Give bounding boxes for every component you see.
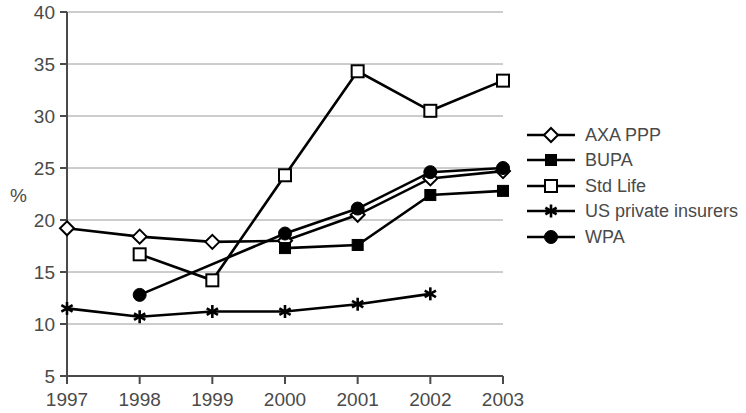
legend-marker-filled-square-icon xyxy=(525,149,577,171)
legend-item[interactable]: WPA xyxy=(525,224,740,250)
x-tick-label: 2000 xyxy=(264,389,306,410)
y-tick-label: 5 xyxy=(44,366,55,387)
data-point-filled-circle xyxy=(351,202,364,215)
data-point-open-square xyxy=(545,180,557,192)
data-point-open-square xyxy=(352,65,364,77)
data-point-filled-square xyxy=(352,239,363,250)
series-wpa xyxy=(140,168,503,295)
x-tick-label: 2001 xyxy=(337,389,379,410)
data-point-filled-square xyxy=(546,155,557,166)
data-point-open-diamond xyxy=(60,221,74,235)
data-point-open-square xyxy=(279,169,291,181)
data-point-filled-square xyxy=(280,243,291,254)
legend-marker-open-square-icon xyxy=(525,175,577,197)
y-tick-labels: 510152025303540 xyxy=(34,2,55,387)
data-point-filled-circle xyxy=(279,227,292,240)
x-tick-labels: 1997199819992000200120022003 xyxy=(46,389,524,410)
legend-item[interactable]: BUPA xyxy=(525,148,740,174)
x-tick-label: 1998 xyxy=(119,389,161,410)
legend-marker-filled-circle-icon xyxy=(525,226,577,248)
x-axis-ticks xyxy=(67,376,503,384)
series-us-private-insurers xyxy=(67,294,430,317)
data-point-filled-square xyxy=(498,185,509,196)
x-tick-label: 1999 xyxy=(191,389,233,410)
x-tick-label: 1997 xyxy=(46,389,88,410)
legend-item[interactable]: AXA PPP xyxy=(525,122,740,148)
y-tick-label: 15 xyxy=(34,262,55,283)
series-line xyxy=(285,191,503,248)
series-line xyxy=(140,168,503,295)
series-bupa xyxy=(285,191,503,248)
y-tick-label: 40 xyxy=(34,2,55,23)
markers-wpa xyxy=(133,162,509,302)
markers-us-private-insurers xyxy=(61,287,436,323)
y-tick-label: 35 xyxy=(34,54,55,75)
data-series-group xyxy=(60,65,510,323)
series-line xyxy=(67,294,430,317)
y-tick-label: 20 xyxy=(34,210,55,231)
data-point-open-diamond xyxy=(205,235,219,249)
legend-item-label: AXA PPP xyxy=(577,124,661,146)
data-point-filled-square xyxy=(425,190,436,201)
legend-item[interactable]: Std Life xyxy=(525,173,740,199)
data-point-open-diamond xyxy=(133,230,147,244)
data-point-filled-circle xyxy=(133,288,146,301)
data-point-filled-circle xyxy=(424,166,437,179)
legend-marker-open-diamond-icon xyxy=(525,124,577,146)
data-point-filled-circle xyxy=(545,230,558,243)
y-axis-label: % xyxy=(10,185,27,206)
data-point-filled-circle xyxy=(497,162,510,175)
x-tick-label: 2002 xyxy=(409,389,451,410)
data-point-open-square xyxy=(134,248,146,260)
x-tick-label: 2003 xyxy=(482,389,524,410)
legend-item-label: BUPA xyxy=(577,149,633,171)
legend-item-label: Std Life xyxy=(577,175,646,197)
legend-item-label: WPA xyxy=(577,226,625,248)
data-point-open-square xyxy=(497,75,509,87)
chart-legend: AXA PPPBUPAStd LifeUS private insurersWP… xyxy=(525,122,740,250)
data-point-open-square xyxy=(206,274,218,286)
data-point-open-square xyxy=(424,105,436,117)
y-tick-label: 25 xyxy=(34,158,55,179)
legend-marker-asterisk-icon xyxy=(525,200,577,222)
y-axis-ticks xyxy=(60,12,67,376)
line-chart-figure: % 510152025303540 1997199819992000200120… xyxy=(0,0,746,413)
legend-item-label: US private insurers xyxy=(577,200,738,222)
y-tick-label: 30 xyxy=(34,106,55,127)
y-tick-label: 10 xyxy=(34,314,55,335)
legend-item[interactable]: US private insurers xyxy=(525,199,740,225)
data-point-open-diamond xyxy=(544,128,558,142)
